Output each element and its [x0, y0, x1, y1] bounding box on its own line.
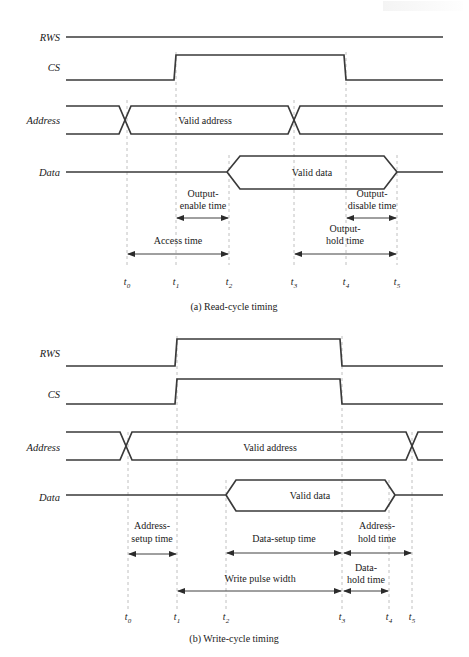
- write-signal-label-address: Address: [26, 442, 60, 453]
- write-waveform-data-upper: [66, 480, 443, 495]
- write-annot-data-setup: Data-setup time: [252, 533, 316, 544]
- write-tick-t1: t1: [174, 611, 180, 625]
- write-arrow-write-pulse-width: [177, 588, 342, 594]
- read-arrow-output-disable-time: [346, 215, 397, 221]
- write-tick-t4: t4: [386, 611, 393, 625]
- read-signal-label-cs: CS: [48, 62, 61, 73]
- scan-artifact: [383, 1, 463, 11]
- read-annot-output-disable-line2: disable time: [348, 200, 397, 211]
- write-annot-address-setup-line2: setup time: [131, 533, 173, 544]
- read-signal-label-address: Address: [26, 115, 60, 126]
- write-waveform-rws: [66, 339, 443, 366]
- write-signal-label-data: Data: [38, 492, 60, 503]
- write-data-value: Valid data: [290, 490, 331, 501]
- read-annot-output-enable-line1: Output-: [187, 188, 218, 199]
- write-tick-t2: t2: [223, 611, 230, 625]
- read-annot-output-enable-line2: enable time: [180, 200, 227, 211]
- memory-timing-figure: RWS CS Address Valid address Data Valid …: [0, 0, 469, 657]
- read-data-value: Valid data: [292, 167, 333, 178]
- write-arrow-data-setup-time: [226, 550, 342, 556]
- read-annot-output-hold-line1: Output-: [329, 223, 360, 234]
- read-time-axis: t0 t1 t2 t3 t4 t5: [124, 276, 401, 290]
- write-tick-t3: t3: [339, 611, 346, 625]
- read-tick-t3: t3: [291, 276, 298, 290]
- read-tick-t1: t1: [173, 276, 179, 290]
- read-arrow-access-time: [127, 251, 229, 257]
- read-signal-label-rws: RWS: [39, 32, 61, 43]
- read-address-value: Valid address: [178, 115, 232, 126]
- read-waveform-cs: [66, 55, 443, 80]
- read-signal-label-data: Data: [38, 167, 60, 178]
- read-annot-access-time: Access time: [154, 235, 203, 246]
- read-waveform-data-upper: [66, 156, 443, 172]
- read-annot-output-hold-line2: hold time: [326, 235, 365, 246]
- write-tick-t5: t5: [409, 611, 416, 625]
- write-cycle-caption: (b) Write-cycle timing: [189, 633, 278, 645]
- write-cycle-diagram: RWS CS Address Valid address Data Valid …: [0, 330, 469, 657]
- read-arrow-output-hold-time: [294, 251, 397, 257]
- write-annot-address-setup-line1: Address-: [134, 520, 170, 531]
- read-cycle-caption: (a) Read-cycle timing: [190, 301, 277, 313]
- write-time-axis: t0 t1 t2 t3 t4 t5: [125, 611, 416, 625]
- read-cycle-diagram: RWS CS Address Valid address Data Valid …: [0, 0, 469, 330]
- read-tick-t2: t2: [226, 276, 233, 290]
- write-annot-data-hold-line2: hold time: [347, 574, 386, 585]
- read-tick-t5: t5: [394, 276, 401, 290]
- write-waveform-cs: [66, 379, 443, 404]
- write-address-value: Valid address: [243, 442, 297, 453]
- write-annot-write-pulse-width: Write pulse width: [224, 573, 295, 584]
- read-arrow-output-enable-time: [176, 215, 229, 221]
- read-tick-t4: t4: [343, 276, 350, 290]
- read-annot-output-disable-line1: Output-: [356, 188, 387, 199]
- write-arrow-data-hold-time: [343, 588, 389, 594]
- read-tick-t0: t0: [124, 276, 131, 290]
- write-annot-address-hold-line1: Address-: [359, 520, 395, 531]
- write-signal-label-rws: RWS: [39, 348, 61, 359]
- read-waveform-address-upper: [66, 106, 443, 134]
- read-waveform-address-lower: [66, 106, 443, 134]
- write-annot-data-hold-line1: Data-: [355, 562, 377, 573]
- write-tick-t0: t0: [125, 611, 132, 625]
- write-signal-label-cs: CS: [48, 389, 61, 400]
- write-arrow-address-setup-time: [128, 551, 177, 557]
- write-annot-address-hold-line2: hold time: [358, 533, 397, 544]
- write-arrow-address-hold-time: [343, 550, 412, 556]
